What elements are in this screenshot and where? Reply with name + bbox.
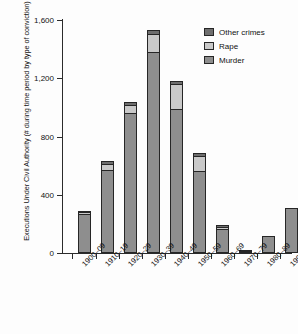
legend-swatch-icon — [204, 42, 214, 50]
bar-segment-murder — [147, 52, 160, 253]
legend-label: Other crimes — [219, 28, 265, 37]
bar-1930-39[interactable] — [147, 30, 160, 253]
y-tick-label: 1,600 — [34, 16, 54, 25]
y-axis-title: Executions Under Civil Authority (# duri… — [22, 0, 36, 246]
legend-label: Rape — [219, 42, 238, 51]
bar-segment-rape — [147, 34, 160, 52]
y-tick-mark — [57, 253, 63, 254]
bar-1950-59[interactable] — [193, 153, 206, 253]
x-tick-mark — [72, 254, 73, 259]
chart-legend: Other crimesRapeMurder — [204, 26, 265, 68]
bar-1920-29[interactable] — [124, 102, 137, 253]
bar-segment-rape — [193, 156, 206, 171]
bar-chart: Executions Under Civil Authority (# duri… — [0, 0, 298, 334]
legend-item[interactable]: Murder — [204, 54, 265, 66]
legend-swatch-icon — [204, 28, 214, 36]
bar-segment-murder — [124, 113, 137, 253]
y-tick-label: 400 — [41, 190, 54, 199]
legend-item[interactable]: Rape — [204, 40, 265, 52]
y-tick-label: 800 — [41, 132, 54, 141]
bar-segment-murder — [170, 109, 183, 253]
legend-label: Murder — [219, 56, 244, 65]
bar-segment-murder — [193, 171, 206, 253]
y-tick-label: 1,200 — [34, 74, 54, 83]
bar-segment-murder — [78, 214, 91, 253]
bar-segment-rape — [170, 84, 183, 110]
y-tick-label: 0 — [50, 249, 54, 258]
bar-1940-49[interactable] — [170, 81, 183, 253]
bar-segment-murder — [101, 170, 114, 253]
bar-segment-rape — [124, 105, 137, 113]
bar-1910-19[interactable] — [101, 161, 114, 253]
legend-item[interactable]: Other crimes — [204, 26, 265, 38]
legend-swatch-icon — [204, 56, 214, 64]
bar-1900-09[interactable] — [78, 211, 91, 254]
